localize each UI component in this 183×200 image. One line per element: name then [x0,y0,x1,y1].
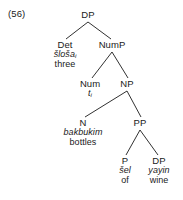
branch-pp-dp [140,130,158,155]
branch-nump-num [92,52,112,78]
tree-node-p: P šel of [119,156,131,186]
syntax-tree-figure: (56) DP Det šlošai three NumP Num ti NP [0,0,183,200]
node-form-det-text: šloša [54,49,75,59]
node-label-pp: PP [134,118,147,128]
branch-pp-p [126,130,140,155]
branch-np-pp [127,91,141,117]
tree-node-dp-root: DP [81,10,94,20]
tree-node-nump: NumP [99,40,126,50]
node-gloss-p: of [119,176,131,186]
node-gloss-det: three [54,60,77,70]
tree-node-det: Det šlošai three [54,40,77,70]
node-label-np: NP [120,79,133,89]
node-gloss-n: bottles [64,138,103,148]
branch-dp-nump [88,22,111,39]
node-label-nump: NumP [99,40,126,50]
node-trace-num: ti [80,89,100,99]
node-trace-index-num: i [91,91,92,98]
tree-node-num: Num ti [80,79,100,99]
node-label-dp-root: DP [81,10,94,20]
branch-nump-np [112,52,128,78]
tree-node-n: N bakbukim bottles [64,118,103,148]
branch-dp-det [66,22,88,39]
node-gloss-dp-object: wine [148,176,169,186]
tree-node-pp: PP [134,118,147,128]
tree-node-np: NP [120,79,133,89]
tree-node-dp-object: DP yayin wine [148,156,169,186]
